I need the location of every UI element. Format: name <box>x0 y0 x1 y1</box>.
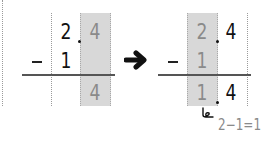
top-ones-digit: 2 <box>58 21 74 43</box>
calculation-annotation: 2−1=1 <box>218 118 261 133</box>
minus-sign <box>32 61 42 63</box>
decimal-point <box>216 101 219 104</box>
sum-line <box>158 74 251 76</box>
decimal-point <box>78 40 81 43</box>
result-ones-digit: 1 <box>194 82 210 104</box>
sum-line <box>22 74 115 76</box>
result-tenths-digit: 4 <box>87 82 103 104</box>
right-arrow-icon <box>124 50 148 70</box>
top-ones-digit: 2 <box>194 21 210 43</box>
hook-arrow-icon <box>200 104 216 116</box>
decimal-point <box>216 40 219 43</box>
ones-column-guide <box>51 13 52 106</box>
result-tenths-digit: 4 <box>223 82 239 104</box>
top-tenths-digit: 4 <box>223 21 239 43</box>
subtrahend-ones-digit: 1 <box>194 50 210 72</box>
tenths-column-guide <box>247 13 248 106</box>
minus-sign <box>168 61 178 63</box>
top-tenths-digit: 4 <box>87 21 103 43</box>
left-border-dotted <box>2 0 3 106</box>
subtrahend-ones-digit: 1 <box>58 50 74 72</box>
